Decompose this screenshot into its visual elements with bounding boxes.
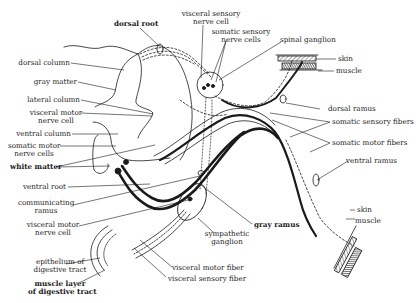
label-somatic-motor-nerve-cells: somatic motor nerve cells (8, 142, 60, 158)
label-ventral-root: ventral root (0, 183, 66, 191)
label-spinal-ganglion: spinal ganglion (280, 36, 336, 44)
label-lateral-column: lateral column (0, 96, 80, 104)
label-gray-ramus: gray ramus (254, 221, 299, 229)
label-line-2: nerve cell (24, 117, 88, 125)
label-visceral-motor-nerve-cell-ganglion: visceral motor nerve cell (24, 221, 82, 237)
label-ventral-column: ventral column (0, 130, 71, 138)
label-sympathetic-ganglion: sympathetic ganglion (204, 230, 250, 246)
label-line-2: ganglion (204, 238, 250, 246)
label-visceral-sensory-fiber: visceral sensory fiber (168, 275, 246, 283)
label-dorsal-column: dorsal column (0, 59, 70, 67)
label-visceral-sensory-nerve-cell: visceral sensory nerve cell (181, 10, 241, 26)
label-visceral-motor-nerve-cell-cord: visceral motor nerve cell (24, 109, 88, 125)
label-somatic-sensory-nerve-cells: somatic sensory nerve cells (211, 28, 271, 44)
label-line-2: nerve cell (24, 229, 82, 237)
label-skin-top: skin (338, 55, 353, 63)
label-line-2: nerve cells (211, 36, 271, 44)
label-dorsal-ramus: dorsal ramus (328, 105, 376, 113)
label-visceral-motor-fiber: visceral motor fiber (172, 264, 244, 272)
label-line-2: ramus (18, 207, 74, 215)
label-line-2: of digestive tract (28, 288, 92, 296)
label-communicating-ramus: communicating ramus (18, 199, 74, 215)
label-white-matter: white matter (10, 163, 62, 171)
label-somatic-motor-fibers: somatic motor fibers (332, 139, 407, 147)
label-line-2: digestive tract (32, 266, 88, 274)
label-line-2: nerve cells (8, 150, 60, 158)
label-somatic-sensory-fibers: somatic sensory fibers (332, 118, 414, 126)
label-dorsal-root: dorsal root (114, 20, 158, 28)
label-ventral-ramus: ventral ramus (346, 157, 397, 165)
label-muscle-top: muscle (336, 67, 362, 75)
nerve-diagram: dorsal root visceral sensory nerve cell … (0, 0, 416, 303)
label-epithelium-digestive-tract: epithelium of digestive tract (32, 258, 88, 274)
label-muscle-bottom: muscle (355, 217, 381, 225)
label-line-2: nerve cell (181, 18, 241, 26)
label-skin-bottom: skin (357, 206, 372, 214)
label-muscle-layer-digestive-tract: muscle layer of digestive tract (28, 280, 92, 296)
label-gray-matter: gray matter (0, 78, 77, 86)
